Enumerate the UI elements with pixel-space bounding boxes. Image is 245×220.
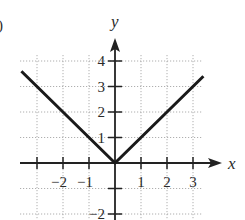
tick-labels: −2−1123−21234: [51, 53, 197, 220]
y-axis: [110, 38, 120, 220]
y-tick-label: 2: [98, 104, 106, 120]
y-tick-label: −2: [89, 206, 105, 220]
x-axis-label: x: [227, 154, 236, 173]
graph-canvas: ) −2−1123−21234 x y: [0, 0, 245, 220]
x-tick-label: −1: [77, 174, 93, 190]
y-tick-label: 3: [98, 79, 106, 95]
x-tick-label: 1: [137, 174, 145, 190]
x-tick-label: 3: [189, 174, 197, 190]
y-tick-label: 1: [98, 130, 106, 146]
panel-marker: ): [0, 17, 3, 34]
abs-value-curve: [21, 71, 203, 163]
x-tick-label: 2: [163, 174, 171, 190]
x-tick-label: −2: [51, 174, 67, 190]
y-tick-label: 4: [98, 53, 106, 69]
x-axis: [20, 158, 222, 168]
y-axis-label: y: [109, 12, 119, 31]
